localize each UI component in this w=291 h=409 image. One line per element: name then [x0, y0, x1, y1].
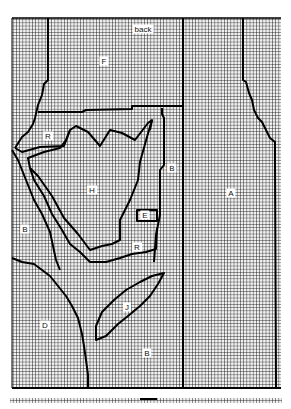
label-B3: B [142, 349, 151, 358]
label-H: H [87, 186, 97, 195]
label-E: E [140, 211, 149, 220]
label-back: back [133, 25, 154, 34]
label-R1: R [43, 132, 53, 141]
label-J: J [123, 303, 131, 312]
label-F: F [100, 57, 109, 66]
label-B2: B [20, 225, 29, 234]
label-A: A [226, 189, 235, 198]
label-D: D [40, 321, 50, 330]
label-B1: B [167, 164, 176, 173]
chart-grid [12, 18, 281, 388]
label-R2: R [132, 243, 142, 252]
